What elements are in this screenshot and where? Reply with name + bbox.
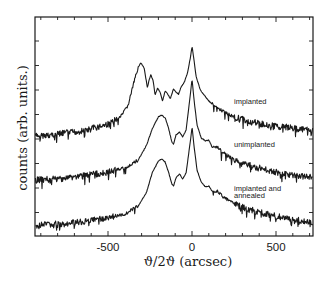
curve-unimplanted [35, 81, 312, 189]
y-axis-title: counts (arb. units.) [15, 65, 30, 191]
label-unimplanted: unimplanted [234, 140, 275, 149]
label-annealed-line2: annealed [234, 191, 265, 200]
x-tick-label-500: 500 [266, 241, 285, 253]
x-axis-title: ϑ/2ϑ (arcsec) [144, 254, 232, 269]
x-tick-label-0: 0 [189, 241, 195, 253]
xrd-rocking-curve-chart: -500 0 500 ϑ/2ϑ (arcsec) counts (arb. un… [0, 0, 329, 281]
data-curves [35, 48, 312, 231]
label-implanted: implanted [234, 97, 267, 106]
x-tick-label-neg500: -500 [96, 241, 119, 253]
curve-implanted [35, 48, 312, 143]
